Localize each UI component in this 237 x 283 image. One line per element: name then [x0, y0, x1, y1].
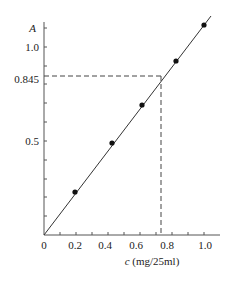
data-point [72, 189, 77, 194]
y-tick-label: 1.0 [25, 41, 39, 53]
y-axis-title: A [28, 22, 36, 34]
data-point [173, 58, 178, 63]
x-tick-label: 0.4 [98, 239, 112, 251]
x-tick-label: 0.6 [129, 239, 143, 251]
x-tick-label: 0.2 [68, 239, 82, 251]
data-point [139, 102, 144, 107]
x-tick-label: 0 [41, 239, 47, 251]
x-axis-unit: (mg/25ml) [132, 255, 179, 268]
data-point [109, 140, 114, 145]
x-tick-label: 0.8 [160, 239, 174, 251]
x-tick-label: 1.0 [198, 239, 212, 251]
x-axis-var: c [125, 255, 130, 267]
data-point [201, 22, 206, 27]
y-tick-label: 0.5 [25, 135, 39, 147]
x-axis-title: c (mg/25ml) [125, 255, 180, 268]
y-tick-label: 0.845 [14, 73, 39, 85]
calibration-chart: A 1.0 0.845 0.5 0 0.2 0.4 0.6 0.8 1.0 c … [0, 0, 237, 283]
fit-line [44, 16, 211, 235]
